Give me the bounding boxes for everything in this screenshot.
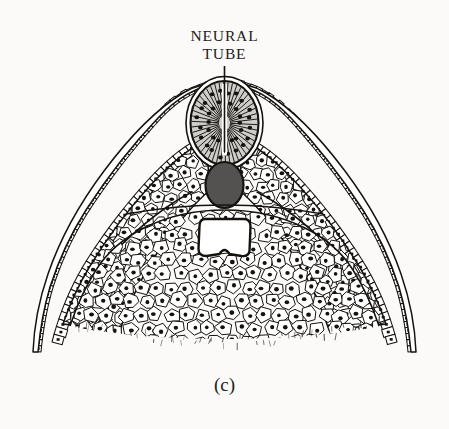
cell-nucleus xyxy=(246,257,250,261)
cell-nucleus xyxy=(248,126,253,130)
cell-nucleus xyxy=(179,209,184,213)
cell-nucleus xyxy=(54,232,59,235)
tissue-cell xyxy=(56,196,71,211)
cell-nucleus xyxy=(266,173,270,177)
tissue-cell xyxy=(146,335,161,348)
cell-nucleus xyxy=(206,120,211,124)
tissue-cell xyxy=(99,213,112,226)
cell-nucleus xyxy=(238,290,243,294)
cell-nucleus xyxy=(346,148,350,152)
tissue-cell xyxy=(135,337,148,352)
cell-nucleus xyxy=(377,278,381,282)
cell-nucleus xyxy=(406,207,410,210)
cell-nucleus xyxy=(301,246,306,250)
cell-nucleus xyxy=(205,325,209,329)
cell-nucleus xyxy=(239,298,244,303)
cell-nucleus xyxy=(139,314,144,318)
tissue-cell xyxy=(375,273,388,287)
cell-nucleus xyxy=(184,313,188,317)
cell-nucleus xyxy=(91,234,96,237)
cell-nucleus xyxy=(57,285,61,289)
cell-nucleus xyxy=(386,172,391,176)
cell-nucleus xyxy=(177,241,181,245)
tissue-fade-tick xyxy=(209,339,211,344)
tissue-cell xyxy=(280,130,293,144)
cell-nucleus xyxy=(166,185,170,189)
tissue-cell xyxy=(346,334,362,348)
tissue-cell xyxy=(85,336,100,351)
cell-nucleus xyxy=(287,161,291,164)
cell-nucleus xyxy=(203,101,208,105)
cell-nucleus xyxy=(283,325,288,329)
cell-nucleus xyxy=(211,135,216,139)
cell-nucleus xyxy=(225,271,229,275)
cell-nucleus xyxy=(306,217,309,221)
cell-nucleus xyxy=(326,280,330,283)
cell-nucleus xyxy=(409,162,413,166)
cell-nucleus xyxy=(98,218,103,222)
tissue-cell xyxy=(67,333,84,347)
cell-nucleus xyxy=(131,271,135,275)
cell-nucleus xyxy=(356,232,360,236)
cell-nucleus xyxy=(401,257,405,261)
cell-nucleus xyxy=(160,272,164,276)
cell-nucleus xyxy=(198,172,203,176)
tissue-fade-tick xyxy=(288,333,289,339)
cell-nucleus xyxy=(369,316,373,320)
tissue-cell xyxy=(379,281,397,295)
cell-nucleus xyxy=(311,339,315,342)
tissue-cell xyxy=(135,155,147,169)
tissue-cell xyxy=(361,181,373,193)
cell-nucleus xyxy=(425,218,430,222)
cell-nucleus xyxy=(332,147,336,151)
cell-nucleus xyxy=(240,324,245,329)
notochord-body xyxy=(206,162,244,208)
cell-nucleus xyxy=(132,170,136,173)
cell-nucleus xyxy=(265,233,269,238)
tissue-cell xyxy=(64,155,78,167)
cell-nucleus xyxy=(317,245,322,248)
tissue-cell xyxy=(390,132,404,144)
cell-nucleus xyxy=(293,148,297,152)
cell-nucleus xyxy=(253,299,257,303)
tissue-cell xyxy=(350,226,363,239)
cell-nucleus xyxy=(67,277,71,280)
cell-nucleus xyxy=(311,185,316,189)
tissue-cell xyxy=(388,209,403,225)
cell-nucleus xyxy=(220,325,225,329)
cell-nucleus xyxy=(382,182,386,186)
cell-nucleus xyxy=(142,169,146,172)
cell-nucleus xyxy=(218,155,223,159)
cell-nucleus xyxy=(139,161,143,165)
tissue-cell xyxy=(358,241,371,254)
cell-nucleus xyxy=(263,261,267,265)
tissue-cell xyxy=(383,168,396,181)
cell-nucleus xyxy=(425,269,430,273)
cell-nucleus xyxy=(66,272,70,277)
cell-nucleus xyxy=(209,148,214,152)
cell-nucleus xyxy=(61,202,66,205)
cell-nucleus xyxy=(279,341,283,345)
tissue-cell xyxy=(345,217,359,230)
cell-nucleus xyxy=(130,247,135,251)
cell-nucleus xyxy=(58,208,61,212)
tissue-cell xyxy=(378,132,391,145)
tissue-cell xyxy=(404,211,420,225)
embryo-cross-section-drawing xyxy=(0,0,449,429)
tissue-cell xyxy=(403,253,416,264)
cell-nucleus xyxy=(360,242,365,246)
cell-nucleus xyxy=(401,340,406,344)
cell-nucleus xyxy=(375,195,379,199)
cell-nucleus xyxy=(89,221,93,225)
cell-nucleus xyxy=(286,137,290,140)
tissue-cell xyxy=(378,204,392,217)
tissue-cell xyxy=(322,180,335,194)
cell-nucleus xyxy=(151,312,156,316)
tissue-cell xyxy=(365,336,380,351)
tissue-cell xyxy=(80,155,92,168)
cell-nucleus xyxy=(247,115,252,119)
cell-nucleus xyxy=(158,150,162,154)
cell-nucleus xyxy=(350,174,354,178)
cell-nucleus xyxy=(367,257,371,261)
cell-nucleus xyxy=(162,139,166,143)
